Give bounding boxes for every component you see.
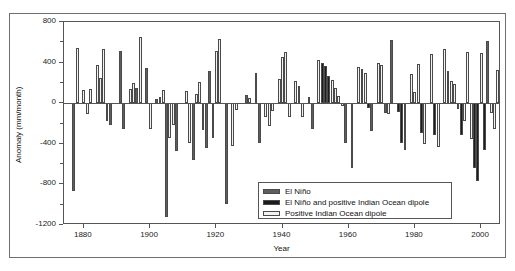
bar <box>89 89 92 103</box>
chart-legend: El NiñoEl Niño and positive Indian Ocean… <box>258 182 452 219</box>
bar <box>311 103 314 129</box>
bar <box>493 103 496 128</box>
x-tick-label: 2000 <box>460 231 500 239</box>
bar <box>139 37 142 103</box>
y-tick-label: -1200 <box>16 220 56 228</box>
y-tick-label: 800 <box>16 17 56 25</box>
x-tick-label: 1960 <box>328 231 368 239</box>
bar <box>337 96 340 103</box>
legend-swatch <box>263 200 280 205</box>
bar <box>149 103 152 128</box>
x-tick-label: 1940 <box>262 231 302 239</box>
legend-swatch <box>263 189 280 194</box>
bar <box>466 52 469 103</box>
bar <box>72 103 75 191</box>
bar <box>486 41 489 103</box>
bar <box>235 103 238 110</box>
x-tick-mark <box>282 224 283 228</box>
y-tick-label: -400 <box>16 139 56 147</box>
y-tick-label: 400 <box>16 58 56 66</box>
bar <box>218 39 221 103</box>
y-tick-mark <box>59 224 63 225</box>
bar <box>284 52 287 103</box>
x-tick-mark <box>215 224 216 228</box>
y-tick-label: -800 <box>16 179 56 187</box>
bar <box>205 103 208 148</box>
bar <box>301 103 304 117</box>
bar <box>82 90 85 103</box>
legend-label: El Niño <box>285 187 311 196</box>
bar <box>102 49 105 103</box>
x-tick-label: 1920 <box>195 231 235 239</box>
x-axis-title: Year <box>63 244 500 253</box>
bar <box>122 103 125 128</box>
chart-figure: Anomaly (mm/month) 8004000-400-800-1200 … <box>0 0 515 271</box>
bar <box>212 103 215 138</box>
x-tick-mark <box>149 224 150 228</box>
bar <box>480 53 483 103</box>
bar <box>463 103 466 121</box>
bar <box>76 48 79 103</box>
x-tick-label: 1880 <box>63 231 103 239</box>
bar <box>380 65 383 104</box>
legend-item: Positive Indian Ocean dipole <box>263 208 446 218</box>
bar <box>483 103 486 150</box>
bar <box>476 103 479 181</box>
bar <box>423 103 426 144</box>
bar <box>404 103 407 150</box>
bar <box>370 103 373 131</box>
bar <box>162 90 165 103</box>
y-tick-label: 0 <box>16 98 56 106</box>
bar <box>364 73 367 103</box>
bar <box>288 103 291 117</box>
zero-baseline <box>64 103 499 104</box>
legend-item: El Niño and positive Indian Ocean dipole <box>263 197 446 207</box>
bar <box>255 73 258 103</box>
bar <box>175 103 178 151</box>
bar <box>387 103 390 114</box>
legend-label: El Niño and positive Indian Ocean dipole <box>285 198 429 207</box>
bar <box>109 103 112 125</box>
bar <box>198 82 201 103</box>
bar <box>344 103 347 143</box>
x-tick-mark <box>83 224 84 228</box>
bar <box>119 51 122 103</box>
legend-label: Positive Indian Ocean dipole <box>285 209 386 218</box>
bar <box>298 86 301 103</box>
bar <box>192 103 195 159</box>
bar <box>258 103 261 143</box>
bar <box>208 71 211 103</box>
bar <box>453 84 456 103</box>
bar <box>271 103 274 111</box>
x-tick-mark <box>348 224 349 228</box>
x-tick-mark <box>480 224 481 228</box>
x-tick-label: 1900 <box>129 231 169 239</box>
legend-item: El Niño <box>263 186 446 196</box>
bar <box>145 68 148 103</box>
bar <box>86 103 89 114</box>
bar <box>417 64 420 103</box>
x-tick-label: 1980 <box>394 231 434 239</box>
legend-swatch <box>263 211 280 216</box>
bar <box>390 40 393 103</box>
bar <box>185 91 188 103</box>
bar <box>437 103 440 147</box>
bar <box>496 70 499 103</box>
x-tick-mark <box>414 224 415 228</box>
bar <box>351 103 354 168</box>
bar <box>430 54 433 103</box>
bar <box>225 103 228 203</box>
